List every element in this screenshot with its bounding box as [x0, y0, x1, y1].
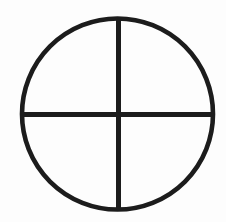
- figure-canvas: [0, 0, 226, 222]
- canvas-background: [0, 0, 226, 222]
- quartered-circle-drawing: [0, 0, 226, 222]
